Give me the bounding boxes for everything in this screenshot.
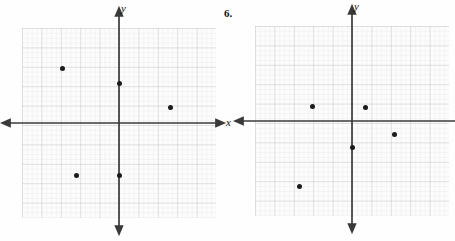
plotted-point-3-left xyxy=(168,105,173,110)
x-axis-arrow-left-end-right xyxy=(235,118,243,125)
plotted-point-3-right xyxy=(392,132,397,137)
y-axis-arrow-bottom-end-right xyxy=(349,224,356,232)
grid-right xyxy=(255,26,449,216)
y-axis-arrow-bottom-end xyxy=(116,226,123,234)
plotted-point-2-right xyxy=(363,105,368,110)
y-axis-label-right: y xyxy=(354,1,359,12)
x-axis-arrow-left-end xyxy=(2,120,10,127)
plotted-point-5-left xyxy=(117,173,122,178)
y-axis-label-left: y xyxy=(121,3,126,14)
plotted-point-4-left xyxy=(74,173,79,178)
coordinate-plane-right: y xyxy=(233,0,455,241)
grid-lines-right xyxy=(255,26,449,216)
grid-left xyxy=(22,28,216,218)
x-axis-arrow-right-end xyxy=(216,120,224,127)
plotted-point-1-left xyxy=(60,66,65,71)
plotted-point-2-left xyxy=(117,81,122,86)
plotted-point-1-right xyxy=(310,104,315,109)
coordinate-plane-left: x y xyxy=(0,0,240,241)
plotted-point-4-right xyxy=(350,145,355,150)
grid-lines-left xyxy=(22,28,216,218)
worksheet-page: 6. xyxy=(0,0,455,241)
plotted-point-5-right xyxy=(297,184,302,189)
x-axis-label-left: x xyxy=(226,117,231,128)
